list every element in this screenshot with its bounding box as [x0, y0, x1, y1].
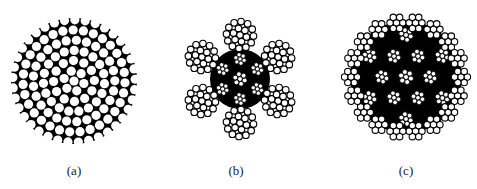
figure-a-label: (a)	[67, 163, 81, 179]
figure-c: (c)	[320, 0, 477, 189]
figure-b: (b)	[160, 0, 320, 189]
figure-a: (a)	[0, 0, 160, 189]
figure-b-label: (b)	[228, 163, 243, 179]
multi-strand-rope-cross-section	[320, 0, 477, 189]
single-strand-cross-section	[0, 0, 160, 189]
six-strand-rope-cross-section	[160, 0, 320, 189]
figure-c-label: (c)	[399, 163, 413, 179]
